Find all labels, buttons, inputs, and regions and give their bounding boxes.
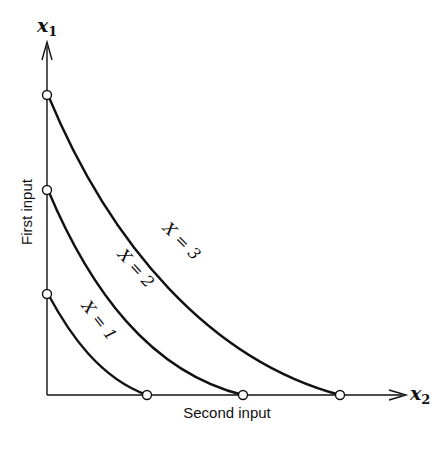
- y-axis-label: First input: [18, 178, 35, 245]
- x-axis-symbol: x2: [409, 382, 430, 407]
- diagram-canvas: x1 x2 First input Second input X = 1 X =…: [0, 0, 447, 450]
- marker-x1-x: [143, 391, 152, 400]
- curve-label-x1: X = 1: [77, 295, 121, 344]
- marker-x2-x: [239, 391, 248, 400]
- y-axis-symbol: x1: [36, 14, 57, 39]
- isoquant-diagram: x1 x2 First input Second input X = 1 X =…: [0, 0, 447, 450]
- curve-label-x3: X = 3: [158, 217, 205, 264]
- curve-x2: [48, 190, 243, 395]
- marker-x1-y: [43, 290, 52, 299]
- x-axis-label: Second input: [183, 404, 271, 421]
- marker-x3-x: [336, 391, 345, 400]
- marker-x2-y: [43, 186, 52, 195]
- marker-x3-y: [43, 91, 52, 100]
